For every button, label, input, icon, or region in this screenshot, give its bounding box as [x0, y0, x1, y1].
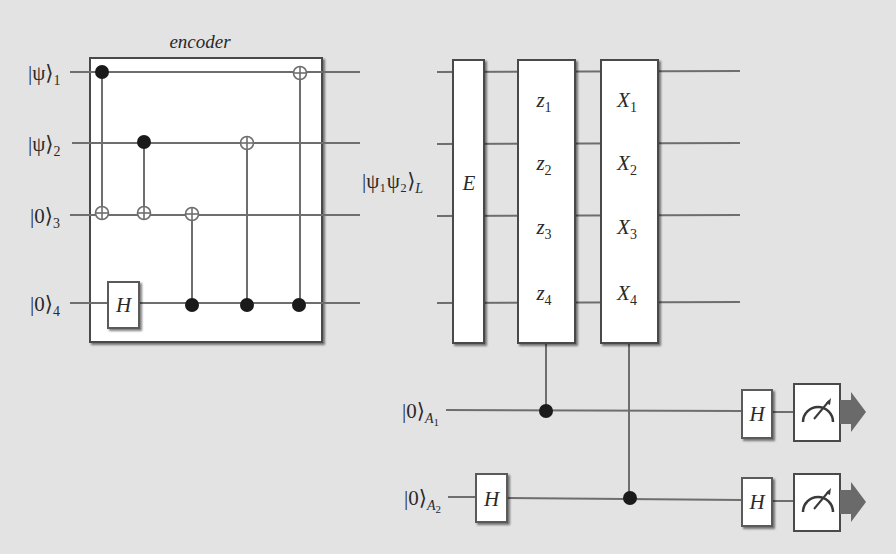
target-oplus-icon [241, 137, 254, 150]
hadamard-gate-q4: H [108, 282, 139, 328]
syndrome-section: |ψ₁ψ₂⟩L E z1 z2 z3 z4 [362, 60, 866, 531]
ancilla-a2: |0⟩A2 H H [404, 474, 866, 531]
ancilla-a2-label: |0⟩A2 [404, 486, 441, 515]
svg-text:H: H [483, 487, 501, 511]
hadamard-gate-a2-post: H [742, 478, 772, 526]
svg-text:H: H [115, 293, 133, 317]
measurement-meter-icon [794, 474, 840, 531]
quantum-circuit-diagram: encoder |ψ⟩1 |ψ⟩2 |0⟩3 |0⟩4 [0, 0, 896, 554]
target-oplus-icon [294, 67, 307, 80]
svg-text:H: H [748, 490, 766, 514]
error-box: E [453, 60, 484, 343]
control-dot-icon [137, 135, 151, 149]
target-oplus-icon [138, 207, 151, 220]
input-label-q2: |ψ⟩2 [28, 132, 61, 159]
x-stabilizer-box: X1 X2 X3 X4 [601, 60, 658, 343]
encoder-input-labels: |ψ⟩1 |ψ⟩2 |0⟩3 |0⟩4 [28, 61, 61, 319]
svg-text:E: E [462, 171, 476, 195]
encoder-section: encoder |ψ⟩1 |ψ⟩2 |0⟩3 |0⟩4 [28, 31, 360, 342]
control-dot-icon [240, 298, 254, 312]
hadamard-gate-a1-post: H [742, 390, 772, 438]
control-dot-icon [623, 491, 637, 505]
control-dot-icon [292, 298, 306, 312]
ancilla-a1-label: |0⟩A1 [402, 399, 439, 428]
svg-text:H: H [748, 402, 766, 426]
logical-state-label: |ψ₁ψ₂⟩L [362, 169, 423, 196]
hadamard-gate-a2-pre: H [476, 474, 507, 522]
target-oplus-icon [186, 208, 199, 221]
z-stabilizer-box: z1 z2 z3 z4 [518, 60, 575, 343]
input-label-q1: |ψ⟩1 [28, 61, 61, 88]
input-label-q4: |0⟩4 [30, 292, 60, 319]
control-dot-icon [95, 65, 109, 79]
input-label-q3: |0⟩3 [30, 204, 60, 231]
measurement-meter-icon [794, 384, 840, 441]
classical-output-arrow-icon [840, 392, 866, 432]
control-dot-icon [539, 404, 553, 418]
target-oplus-icon [96, 207, 109, 220]
control-dot-icon [185, 298, 199, 312]
classical-output-arrow-icon [840, 482, 866, 522]
encoder-title: encoder [169, 31, 231, 52]
ancilla-a1: |0⟩A1 H [402, 384, 866, 441]
